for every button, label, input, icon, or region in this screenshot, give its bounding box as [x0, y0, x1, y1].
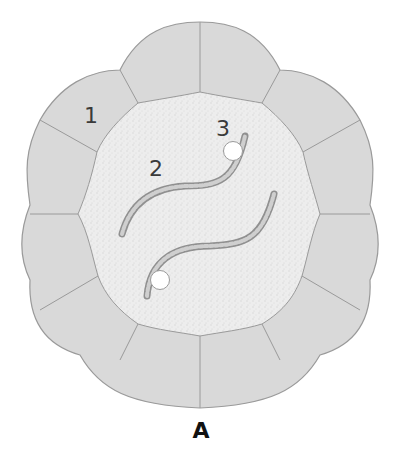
round-body-upper	[224, 142, 243, 161]
figure-caption: A	[0, 418, 402, 443]
central-region-shape	[78, 92, 320, 336]
label-2: 2	[149, 156, 163, 181]
label-1: 1	[84, 103, 98, 128]
cell-cross-section-diagram: 1 2 3	[0, 0, 402, 457]
round-body-lower	[151, 271, 170, 290]
central-region	[78, 92, 320, 336]
label-3: 3	[216, 116, 230, 141]
